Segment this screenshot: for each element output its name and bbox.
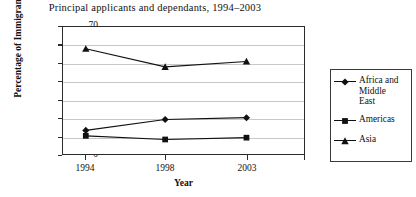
x-axis-tick-mark	[85, 155, 86, 160]
legend-item[interactable]: Asia	[334, 134, 376, 146]
plot-area	[62, 26, 305, 155]
x-axis-tick-label: 2003	[222, 163, 272, 173]
chart-title: Principal applicants and dependants, 199…	[0, 2, 310, 13]
x-axis-tick-mark	[304, 155, 305, 160]
y-axis-tick-mark	[58, 155, 62, 156]
y-axis-title: Percentage of Immigrants	[13, 0, 23, 115]
series-line	[86, 49, 247, 67]
data-point-marker	[162, 137, 168, 143]
x-axis-tick-mark	[247, 155, 248, 160]
legend-item[interactable]: Africa andMiddleEast	[334, 75, 399, 107]
data-point-marker	[83, 133, 89, 139]
x-axis-tick-label: 1998	[140, 163, 190, 173]
series-lines-and-markers	[63, 27, 304, 154]
x-axis-tick-mark	[165, 155, 166, 160]
data-point-marker	[243, 114, 250, 121]
legend-marker-triangle-icon	[334, 135, 356, 146]
chart-figure: Principal applicants and dependants, 199…	[0, 0, 416, 197]
legend-label: Asia	[356, 134, 376, 145]
x-axis-tick-label: 1994	[60, 163, 110, 173]
data-point-marker	[82, 45, 89, 52]
legend-item[interactable]: Americas	[334, 114, 395, 126]
legend-marker-diamond-icon	[334, 76, 356, 87]
data-point-marker	[244, 135, 250, 141]
legend-label: Americas	[356, 114, 395, 125]
legend-label: Africa andMiddleEast	[356, 75, 399, 107]
data-point-marker	[162, 116, 169, 123]
legend-marker-square-icon	[334, 115, 356, 126]
data-point-marker	[82, 127, 89, 134]
x-axis-title: Year	[62, 178, 305, 188]
chart-legend: Africa andMiddleEastAmericasAsia	[330, 69, 412, 162]
